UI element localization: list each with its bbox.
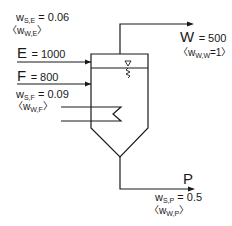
stream-p-alt-open: 〈w — [149, 205, 166, 216]
stream-f-alt-sub: W,F — [30, 106, 42, 113]
stream-w-alt: 〈wW,W=1〉 — [178, 48, 231, 59]
stream-p-fraction-var: w — [155, 191, 163, 203]
stream-e-fraction-sub: S,E — [24, 17, 35, 24]
stream-e-fraction-var: w — [16, 11, 24, 23]
stream-e-label: E = 1000 — [17, 45, 65, 61]
stream-w-value: = 500 — [199, 32, 227, 44]
stream-e-value: = 1000 — [31, 48, 65, 60]
stream-f-fraction-sub: S,F — [24, 94, 35, 101]
stream-e-alt: 〈wW,E〉 — [7, 26, 47, 37]
stream-f-label: F = 800 — [17, 68, 58, 84]
stream-p-fraction-value: = 0.5 — [177, 191, 202, 203]
stream-f-fraction: wS,F = 0.09 — [16, 89, 69, 101]
stream-e-alt-open: 〈w — [7, 25, 24, 36]
stream-w-name: W — [180, 28, 194, 45]
stream-e-alt-sub: W,E — [24, 30, 37, 37]
stream-f-name: F — [17, 67, 26, 84]
vessel-body — [91, 54, 148, 157]
stream-w-alt-close: =1〉 — [210, 47, 231, 58]
stream-w-alt-sub: W,W — [195, 52, 210, 59]
stream-w-alt-open: 〈w — [178, 47, 195, 58]
stream-p-fraction: wS,P = 0.5 — [155, 192, 202, 204]
stream-f-alt-open: 〈w — [13, 101, 30, 112]
stream-f-alt: 〈wW,F〉 — [13, 102, 53, 113]
arrow-w-icon — [187, 22, 194, 27]
stream-w-label: W = 500 — [180, 29, 226, 45]
stream-p-alt-sub: W,P — [166, 210, 179, 217]
stream-e-alt-close: 〉 — [37, 25, 47, 36]
stream-p-alt: 〈wW,P〉 — [149, 206, 189, 217]
stream-p-name: P — [183, 171, 193, 186]
stream-f-fraction-value: = 0.09 — [38, 88, 69, 100]
stream-e-name: E — [17, 44, 27, 61]
stream-e-fraction: wS,E = 0.06 — [16, 12, 69, 24]
stream-p-fraction-sub: S,P — [163, 197, 174, 204]
stream-e-fraction-value: = 0.06 — [38, 11, 69, 23]
stream-p-alt-close: 〉 — [179, 205, 189, 216]
arrow-e-icon — [85, 60, 91, 65]
level-indicator-icon — [125, 61, 131, 78]
arrow-f-icon — [85, 82, 91, 87]
stream-f-alt-close: 〉 — [43, 101, 53, 112]
stream-f-fraction-var: w — [16, 88, 24, 100]
stream-f-value: = 800 — [31, 71, 59, 83]
